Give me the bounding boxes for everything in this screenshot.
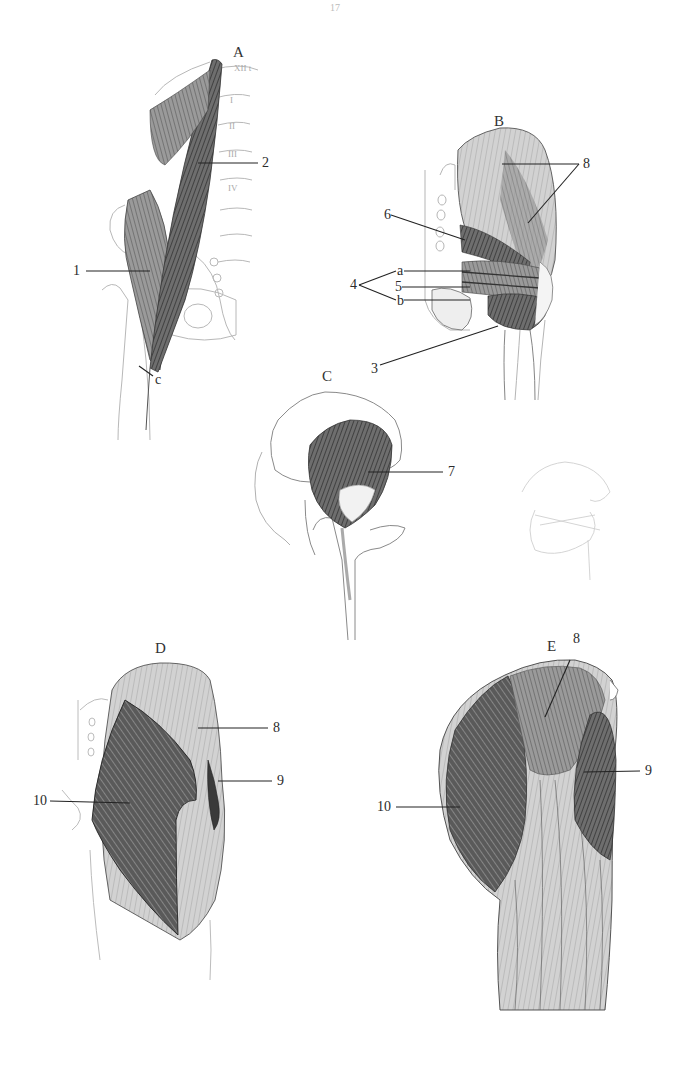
figure-e-letter: E: [547, 638, 556, 655]
label-9-tensor-fasciae-e: 9: [645, 764, 652, 778]
label-10-gluteus-maximus-e: 10: [377, 800, 391, 814]
vertebra-label-i: I: [230, 96, 233, 105]
label-8-gluteus-medius-e: 8: [573, 632, 580, 646]
label-4-gemelli: 4: [350, 278, 357, 292]
label-6-piriformis: 6: [384, 208, 391, 222]
figure-e-drawing: [439, 660, 618, 1010]
label-2-psoas: 2: [262, 156, 269, 170]
figure-c-letter: C: [322, 368, 332, 385]
figure-c-drawing: [255, 392, 405, 640]
label-9-tensor-fasciae-d: 9: [277, 774, 284, 788]
label-7-gluteus-minimus: 7: [448, 465, 455, 479]
label-8-gluteus-medius-d: 8: [273, 721, 280, 735]
label-c: c: [155, 373, 161, 387]
vertebra-label-ii: II: [229, 122, 235, 131]
figure-d-drawing: [62, 663, 225, 980]
label-1-iliacus: 1: [73, 264, 80, 278]
label-5-obturator: 5: [395, 280, 402, 294]
label-8-gluteus-medius: 8: [583, 157, 590, 171]
figure-b-drawing: [425, 128, 556, 400]
anatomy-plate: 17: [0, 0, 694, 1071]
label-3-quadratus-femoris: 3: [371, 362, 378, 376]
label-a: a: [397, 264, 403, 278]
figure-a-drawing: [102, 60, 258, 441]
vertebra-label-iv: IV: [228, 184, 238, 193]
vertebra-label-iii: III: [228, 150, 237, 159]
label-b: b: [397, 294, 404, 308]
faint-sketch: [522, 462, 610, 580]
figure-a-letter: A: [233, 44, 244, 61]
figure-d-letter: D: [155, 640, 166, 657]
label-10-gluteus-maximus-d: 10: [33, 794, 47, 808]
figure-b-letter: B: [494, 113, 504, 130]
vertebra-label-xii: XII t: [234, 64, 251, 73]
